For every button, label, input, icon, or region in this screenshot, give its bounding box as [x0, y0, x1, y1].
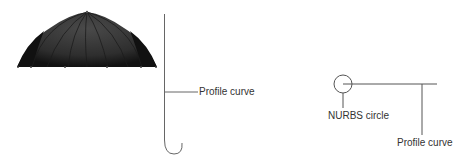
right-profile-label: Profile curve — [397, 137, 453, 149]
umbrella-canopy — [17, 11, 157, 68]
nurbs-circle-label: NURBS circle — [328, 110, 389, 122]
diagram-canvas — [0, 0, 463, 159]
left-profile-curve — [165, 14, 183, 154]
left-profile-label: Profile curve — [199, 86, 255, 98]
